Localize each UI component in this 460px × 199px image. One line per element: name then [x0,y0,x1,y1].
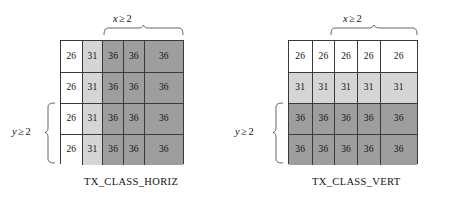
grid-cell: 26 [312,41,335,72]
grid-cell: 36 [144,73,183,103]
grid-cell: 36 [123,41,144,72]
grid-cell: 31 [289,73,312,103]
grid-cell: 31 [82,135,103,165]
grid-cell: 36 [334,135,357,165]
grid-row: 36 36 36 36 36 [289,134,417,165]
texture-class-figure: x≥2 y≥2 26 31 36 36 36 26 31 36 36 [0,0,460,199]
grid-cell: 36 [102,41,123,72]
grid-cell: 36 [334,104,357,134]
label-x-constraint-vert: x≥2 [343,13,362,24]
grid-cell: 26 [61,73,82,103]
label-x-value: 2 [126,13,131,24]
grid-cell: 36 [144,41,183,72]
grid-tx-class-horiz: 26 31 36 36 36 26 31 36 36 36 26 31 36 3… [60,40,184,164]
panel-tx-class-horiz: x≥2 y≥2 26 31 36 36 36 26 31 36 36 [0,0,230,199]
grid-cell: 26 [357,41,380,72]
grid-cell: 36 [102,135,123,165]
grid-cell: 31 [82,73,103,103]
brace-y-horiz [44,102,55,164]
label-y-var: y [12,126,17,137]
grid-cell: 26 [334,41,357,72]
grid-row: 26 31 36 36 36 [61,134,183,165]
grid-cell: 26 [380,41,417,72]
grid-cell: 36 [357,104,380,134]
label-y-value: 2 [248,126,253,137]
label-y-constraint-horiz: y≥2 [12,126,31,137]
grid-cell: 36 [102,73,123,103]
grid-cell: 31 [334,73,357,103]
brace-y-vert [272,102,283,164]
grid-cell: 36 [102,104,123,134]
grid-cell: 36 [123,73,144,103]
grid-cell: 36 [312,104,335,134]
label-x-var: x [343,13,348,24]
grid-row: 26 26 26 26 26 [289,41,417,72]
label-y-value: 2 [25,126,30,137]
label-y-constraint-vert: y≥2 [235,126,254,137]
panel-tx-class-vert: x≥2 y≥2 26 26 26 26 26 31 31 31 31 [230,0,460,199]
grid-cell: 36 [123,135,144,165]
grid-tx-class-vert: 26 26 26 26 26 31 31 31 31 31 36 36 36 3… [288,40,418,164]
caption-tx-class-horiz: TX_CLASS_HORIZ [84,176,178,187]
grid-cell: 36 [289,104,312,134]
grid-cell: 26 [61,104,82,134]
grid-row: 36 36 36 36 36 [289,103,417,134]
label-x-value: 2 [356,13,361,24]
grid-cell: 26 [289,41,312,72]
label-y-var: y [235,126,240,137]
grid-cell: 36 [144,104,183,134]
grid-cell: 36 [123,104,144,134]
grid-cell: 36 [380,135,417,165]
grid-cell: 31 [380,73,417,103]
grid-row: 26 31 36 36 36 [61,103,183,134]
grid-cell: 31 [357,73,380,103]
grid-cell: 36 [380,104,417,134]
caption-tx-class-vert: TX_CLASS_VERT [312,176,401,187]
grid-cell: 31 [312,73,335,103]
brace-x-horiz [103,25,184,35]
grid-row: 31 31 31 31 31 [289,72,417,103]
grid-cell: 26 [61,135,82,165]
grid-cell: 36 [357,135,380,165]
grid-cell: 31 [82,104,103,134]
grid-cell: 36 [144,135,183,165]
grid-cell: 31 [82,41,103,72]
grid-cell: 26 [61,41,82,72]
grid-row: 26 31 36 36 36 [61,72,183,103]
brace-x-vert [330,25,418,35]
grid-cell: 36 [312,135,335,165]
label-x-constraint-horiz: x≥2 [113,13,132,24]
grid-cell: 36 [289,135,312,165]
label-x-var: x [113,13,118,24]
grid-row: 26 31 36 36 36 [61,41,183,72]
